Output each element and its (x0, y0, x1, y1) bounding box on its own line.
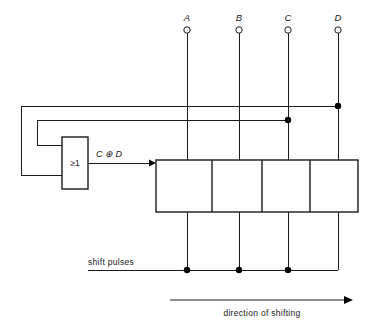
junction-dot-clock-a (184, 267, 190, 273)
junction-dot-clock-b (236, 267, 242, 273)
xor-gate-symbol: ≥1 (70, 158, 80, 168)
direction-of-shifting-label: direction of shifting (223, 308, 300, 318)
terminal-circle-c[interactable] (285, 27, 291, 33)
terminal-label-c: C (285, 12, 292, 23)
terminal-circle-d[interactable] (335, 27, 341, 33)
terminal-label-a: A (183, 12, 190, 23)
terminal-label-d: D (335, 12, 342, 23)
terminal-circle-b[interactable] (236, 27, 242, 33)
shift-register-body[interactable] (156, 160, 358, 212)
xor-output-label: C ⊕ D (96, 149, 123, 159)
terminal-label-b: B (236, 12, 243, 23)
direction-arrowhead (344, 296, 353, 304)
shift-pulses-label: shift pulses (88, 257, 134, 267)
gate-output-arrowhead (149, 160, 156, 167)
terminal-vertical-lines (187, 33, 338, 160)
junction-dot-c-feedback (285, 117, 291, 123)
junction-dot-d-feedback (335, 103, 341, 109)
terminal-circles (184, 27, 341, 33)
junction-dot-clock-c (285, 267, 291, 273)
terminal-circle-a[interactable] (184, 27, 190, 33)
clock-vertical-lines (187, 212, 338, 270)
shift-register-diagram: A B C D ≥1 C ⊕ D (0, 0, 380, 330)
diagram-canvas: A B C D ≥1 C ⊕ D (0, 0, 380, 330)
